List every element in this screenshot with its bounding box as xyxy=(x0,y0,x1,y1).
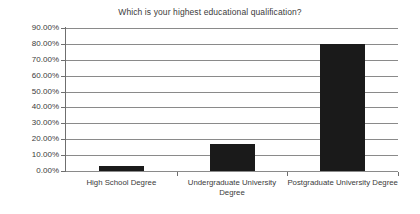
y-axis-tick-label: 50.00% xyxy=(32,88,59,96)
bar xyxy=(210,144,255,171)
bar xyxy=(320,44,365,171)
plot-area xyxy=(66,28,398,171)
chart-title: Which is your highest educational qualif… xyxy=(0,7,420,17)
y-axis-tick-label: 90.00% xyxy=(32,24,59,32)
x-axis-tick xyxy=(177,172,178,176)
y-axis-tick-label: 10.00% xyxy=(32,151,59,159)
x-axis-category-label: Postgraduate University Degree xyxy=(287,178,398,188)
y-axis-tick-label: 0.00% xyxy=(36,167,59,175)
x-axis-category-label: Undergraduate University Degree xyxy=(177,178,288,198)
y-axis-tick-label: 60.00% xyxy=(32,72,59,80)
y-axis-tick-label: 30.00% xyxy=(32,119,59,127)
gridline xyxy=(66,28,398,29)
bar-chart: Which is your highest educational qualif… xyxy=(0,0,420,214)
x-axis-tick xyxy=(398,172,399,176)
x-axis-category-label: High School Degree xyxy=(66,178,177,188)
gridline xyxy=(66,171,398,172)
y-axis-tick-label: 80.00% xyxy=(32,40,59,48)
bar xyxy=(99,166,144,171)
y-axis-tick-label: 20.00% xyxy=(32,135,59,143)
y-axis-tick-label: 70.00% xyxy=(32,56,59,64)
x-axis-tick xyxy=(287,172,288,176)
y-axis-tick-label: 40.00% xyxy=(32,103,59,111)
